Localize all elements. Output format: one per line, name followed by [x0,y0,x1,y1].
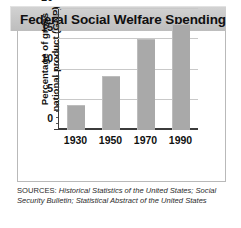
x-axis-tick-labels: 1930195019701990 [58,134,198,146]
bar-slot [93,9,128,130]
bar-1970 [137,39,155,130]
bar-1990 [172,24,190,130]
bar-1950 [102,76,120,130]
bar-slot [58,9,93,130]
y-axis-tick-label: 15 [41,21,53,33]
bar-1930 [67,105,85,130]
y-axis-tick-label: 20 [41,0,53,3]
x-axis-tick-label: 1970 [128,134,163,146]
x-axis-tick-label: 1990 [163,134,198,146]
plot-area: 05101520 [58,9,198,130]
source-citation: SOURCES: Historical Statistics of the Un… [17,186,233,207]
source-line-3: United States [161,196,207,205]
source-label: SOURCES: [17,186,59,195]
x-axis-tick-label: 1930 [58,134,93,146]
source-line-1: Historical Statistics of the United Stat… [59,186,194,195]
bar-slot [128,9,163,130]
chart-figure: Federal Social Welfare Spending Percenta… [0,0,241,228]
bar-slot [163,9,198,130]
bar-series [58,9,198,130]
y-axis-tick-label: 0 [47,112,53,124]
y-axis-tick-label: 5 [47,82,53,94]
y-axis-tick-label: 10 [41,52,53,64]
x-axis-tick-label: 1950 [93,134,128,146]
